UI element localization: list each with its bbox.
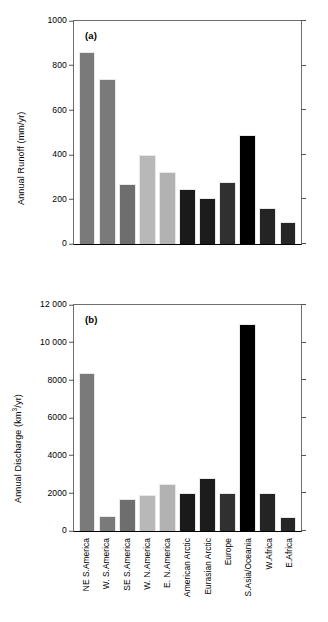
bar-slot: [238, 305, 258, 531]
y-tick-mark-right: [301, 379, 306, 380]
y-tick-label: 8000: [47, 376, 74, 385]
bar-slot: [198, 21, 218, 244]
bar-slot: [157, 21, 177, 244]
x-axis-label-s-asia-oceania: S.Asia/Oceania: [243, 538, 253, 596]
bar-w-n-america: [139, 495, 156, 531]
bar-slot: [218, 21, 238, 244]
bar-slot: [117, 21, 137, 244]
bar-ne-s-america: [79, 52, 96, 244]
bar-slot: [258, 305, 278, 531]
x-axis-category-labels: NE S.AmericaW. S.AmericaSE S.AmericaW. N…: [73, 536, 302, 622]
bar-american-arctic: [179, 189, 196, 244]
bar-europe: [219, 493, 236, 531]
bar-slot: [278, 305, 298, 531]
panel-a-plot-area: (a) 02004006008001000: [73, 20, 302, 245]
panel-b-bar-group: [74, 305, 301, 531]
bar-w-africa: [259, 493, 276, 531]
x-label-slot: W. S.America: [96, 536, 116, 622]
y-tick-mark-right: [301, 154, 306, 155]
bar-se-s-america: [119, 499, 136, 531]
x-label-slot: SE S.America: [117, 536, 137, 622]
x-label-slot: American Arctic: [177, 536, 197, 622]
x-axis-label-w-n-america: W. N.America: [142, 538, 152, 590]
panel-b-y-axis-title: Annual Discharge (km3/yr): [13, 394, 23, 503]
bar-slot: [137, 305, 157, 531]
bar-eurasian-arctic: [199, 198, 216, 244]
x-label-slot: S.Asia/Oceania: [238, 536, 258, 622]
bar-american-arctic: [179, 493, 196, 531]
bar-s-asia-oceania: [239, 135, 256, 244]
x-axis-label-e-n-america: E. N.America: [162, 538, 172, 588]
y-tick-mark-right: [301, 530, 306, 531]
x-label-slot: E. N.America: [157, 536, 177, 622]
bar-slot: [177, 21, 197, 244]
panel-b-y-axis-title-exponent: 3: [11, 408, 18, 412]
bar-se-s-america: [119, 184, 136, 244]
y-tick-label: 12 000: [40, 301, 74, 310]
bar-w-n-america: [139, 155, 156, 244]
figure-bar-chart-runoff-discharge: Annual Runoff (mm/yr) (a) 02004006008001…: [0, 0, 328, 622]
x-label-slot: E.Africa: [279, 536, 299, 622]
bar-slot: [97, 305, 117, 531]
bar-slot: [117, 305, 137, 531]
x-axis-label-se-s-america: SE S.America: [122, 538, 132, 591]
y-tick-label: 0: [62, 527, 74, 536]
y-tick-label: 10 000: [40, 338, 74, 347]
y-tick-label: 600: [52, 106, 74, 115]
panel-b-plot-area: (b) 0200040006000800010 00012 000: [73, 304, 302, 532]
bar-e-africa: [280, 222, 297, 244]
bar-e-n-america: [159, 172, 176, 244]
bar-slot: [258, 21, 278, 244]
panel-b-y-axis-title-post: /yr): [13, 394, 23, 408]
y-tick-mark-right: [301, 304, 306, 305]
panel-a-y-axis-title: Annual Runoff (mm/yr): [16, 111, 26, 205]
panel-a-annual-runoff: Annual Runoff (mm/yr) (a) 02004006008001…: [0, 0, 328, 268]
panel-b-annual-discharge: Annual Discharge (km3/yr) (b) 0200040006…: [0, 288, 328, 622]
x-label-slot: W.Africa: [258, 536, 278, 622]
y-tick-mark-right: [301, 243, 306, 244]
x-label-slot: NE S.America: [76, 536, 96, 622]
bar-eurasian-arctic: [199, 478, 216, 531]
x-label-slot: Europe: [218, 536, 238, 622]
y-tick-mark-right: [301, 455, 306, 456]
bar-e-n-america: [159, 484, 176, 531]
x-axis-label-w-s-america: W. S.America: [101, 538, 111, 589]
bar-slot: [198, 305, 218, 531]
bar-slot: [218, 305, 238, 531]
x-axis-label-ne-s-america: NE S.America: [81, 538, 91, 591]
x-axis-label-e-africa: E.Africa: [284, 538, 294, 568]
y-tick-label: 400: [52, 151, 74, 160]
y-tick-mark-right: [301, 492, 306, 493]
bar-slot: [177, 305, 197, 531]
y-tick-mark-right: [301, 109, 306, 110]
bar-europe: [219, 182, 236, 244]
x-axis-label-eurasian-arctic: Eurasian Arctic: [203, 538, 213, 595]
bar-slot: [77, 305, 97, 531]
x-label-slot: Eurasian Arctic: [198, 536, 218, 622]
bar-slot: [157, 305, 177, 531]
y-tick-mark-right: [301, 65, 306, 66]
y-tick-mark-right: [301, 20, 306, 21]
bar-w-africa: [259, 208, 276, 244]
y-tick-label: 6000: [47, 414, 74, 423]
y-tick-label: 1000: [47, 17, 74, 26]
bar-ne-s-america: [79, 373, 96, 531]
bar-w-s-america: [99, 516, 116, 531]
bar-s-asia-oceania: [239, 324, 256, 531]
y-tick-mark-right: [301, 198, 306, 199]
bar-w-s-america: [99, 79, 116, 244]
y-tick-label: 800: [52, 61, 74, 70]
bar-slot: [137, 21, 157, 244]
x-axis-label-w-africa: W.Africa: [264, 538, 274, 570]
x-axis-label-american-arctic: American Arctic: [182, 538, 192, 597]
bar-slot: [97, 21, 117, 244]
y-tick-label: 200: [52, 195, 74, 204]
x-label-slot: W. N.America: [137, 536, 157, 622]
y-tick-label: 0: [62, 240, 74, 249]
bar-slot: [77, 21, 97, 244]
y-tick-label: 4000: [47, 451, 74, 460]
y-tick-mark-right: [301, 417, 306, 418]
y-tick-label: 2000: [47, 489, 74, 498]
bar-slot: [278, 21, 298, 244]
panel-a-bar-group: [74, 21, 301, 244]
